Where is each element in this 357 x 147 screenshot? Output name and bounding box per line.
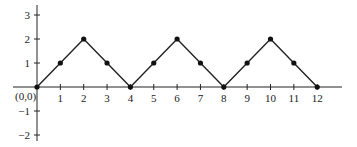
data-point	[291, 60, 296, 65]
x-tick-label: 10	[265, 92, 277, 104]
data-point	[104, 60, 109, 65]
y-tick-label: 2	[25, 33, 31, 45]
x-tick-label: 2	[81, 92, 87, 104]
data-point	[34, 84, 39, 89]
ticks	[34, 15, 317, 135]
data-point	[175, 36, 180, 41]
data-point	[128, 84, 133, 89]
data-point	[315, 84, 320, 89]
x-tick-label: 6	[174, 92, 180, 104]
data-point	[151, 60, 156, 65]
data-point	[268, 36, 273, 41]
x-tick-label: 3	[104, 92, 110, 104]
x-tick-label: 5	[151, 92, 157, 104]
x-tick-label: 8	[221, 92, 227, 104]
x-tick-label: 1	[58, 92, 64, 104]
data-series	[34, 36, 319, 89]
axes	[13, 5, 342, 141]
y-tick-label: 1	[25, 57, 31, 69]
x-tick-label: 12	[312, 92, 323, 104]
data-line	[37, 39, 317, 87]
data-point	[198, 60, 203, 65]
triangle-wave-chart: 123456789101112321−1−2(0,0)	[0, 0, 357, 147]
data-point	[58, 60, 63, 65]
y-tick-label: 3	[25, 9, 31, 21]
y-tick-label: −2	[18, 129, 30, 141]
x-tick-label: 7	[198, 92, 204, 104]
tick-labels: 123456789101112321−1−2(0,0)	[15, 9, 323, 141]
x-tick-label: 4	[128, 92, 134, 104]
y-tick-label: −1	[18, 105, 30, 117]
x-tick-label: 9	[244, 92, 250, 104]
data-point	[245, 60, 250, 65]
origin-label: (0,0)	[15, 90, 36, 103]
data-point	[81, 36, 86, 41]
data-point	[221, 84, 226, 89]
x-tick-label: 11	[289, 92, 300, 104]
